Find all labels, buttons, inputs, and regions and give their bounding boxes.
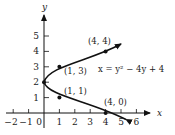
svg-text:0: 0: [36, 117, 42, 127]
y-axis-label: y: [41, 2, 48, 12]
point-label-1-3: (1, 3): [64, 66, 87, 76]
svg-text:6: 6: [134, 117, 140, 127]
svg-text:3: 3: [87, 117, 93, 127]
svg-text:4: 4: [103, 117, 109, 127]
svg-text:5: 5: [33, 31, 39, 41]
point-label-1-1: (1, 1): [64, 86, 87, 96]
parabola-graph: −2 −1 0 1 2 3 4 5 6 1 2 3 4 5 x y polyli…: [0, 0, 175, 135]
svg-text:1: 1: [57, 117, 63, 127]
point-label-4-0: (4, 0): [104, 97, 127, 107]
svg-text:−1: −1: [19, 117, 32, 127]
svg-text:−2: −2: [4, 117, 17, 127]
svg-text:4: 4: [33, 46, 39, 56]
y-tick-labels: 1 2 3 4 5: [33, 31, 39, 103]
svg-text:2: 2: [72, 117, 78, 127]
points: [42, 49, 108, 115]
x-ticks: [13, 109, 136, 113]
svg-text:3: 3: [33, 62, 39, 72]
x-tick-labels: −2 −1 0 1 2 3 4 5 6: [4, 117, 139, 127]
parabola: [44, 44, 126, 120]
equation-label: x = y² − 4y + 4: [98, 64, 164, 74]
svg-text:1: 1: [33, 93, 39, 103]
point-label-4-4: (4, 4): [88, 36, 111, 46]
svg-text:2: 2: [33, 77, 39, 87]
x-axis-label: x: [157, 108, 162, 118]
